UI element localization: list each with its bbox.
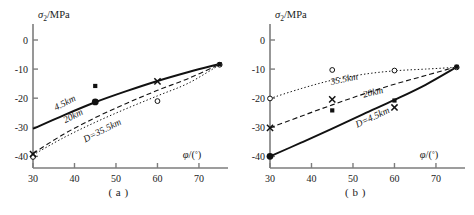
data-point-filled-circle <box>92 99 99 106</box>
data-point-open-circle <box>392 68 397 73</box>
x-axis-ticks: 3040506070 <box>265 163 441 184</box>
x-tick-label: 30 <box>28 173 38 184</box>
y-tick-label: -40 <box>15 151 28 162</box>
x-tick-label: 60 <box>152 173 162 184</box>
panel-caption-a: ( a ) <box>0 186 237 198</box>
curve-D-4-5km <box>270 67 457 156</box>
figure-root: 0-10-20-30-403040506070σ2/MPaφ/(°)D=35.5… <box>0 0 474 215</box>
curve-label: D=35.5km <box>81 117 123 145</box>
data-point-open-circle <box>268 96 273 101</box>
data-point-cross <box>329 96 335 102</box>
curve-labels: D=35.5km20km4.5km <box>52 93 122 145</box>
data-point-filled-square <box>93 84 97 88</box>
curve-label: 35.5km <box>328 71 358 87</box>
data-point-open-circle <box>155 99 160 104</box>
x-tick-label: 40 <box>306 173 316 184</box>
chart-canvas-a: 0-10-20-30-403040506070σ2/MPaφ/(°)D=35.5… <box>0 0 237 215</box>
data-point-filled-square <box>218 62 222 66</box>
chart-panel-a: 0-10-20-30-403040506070σ2/MPaφ/(°)D=35.5… <box>0 0 237 215</box>
data-point-filled-circle <box>267 153 274 160</box>
panel-caption-b: ( b ) <box>237 186 474 198</box>
y-tick-label: -10 <box>15 64 28 75</box>
data-point-open-circle <box>330 68 335 73</box>
x-tick-label: 50 <box>348 173 358 184</box>
x-tick-label: 70 <box>194 173 204 184</box>
x-tick-label: 40 <box>69 173 79 184</box>
curves <box>270 67 457 157</box>
chart-canvas-b: 0-10-20-30-403040506070σ2/MPaφ/(°)D=4.5k… <box>237 0 474 215</box>
data-point-filled-square <box>455 65 459 69</box>
y-tick-label: -30 <box>15 122 28 133</box>
y-axis-label: σ2/MPa <box>38 9 70 23</box>
y-tick-label: -40 <box>252 151 265 162</box>
x-axis-label: φ/(°) <box>420 149 439 161</box>
data-point-filled-square <box>330 108 334 112</box>
x-axis-ticks: 3040506070 <box>28 163 204 184</box>
x-tick-label: 30 <box>265 173 275 184</box>
chart-panel-b: 0-10-20-30-403040506070σ2/MPaφ/(°)D=4.5k… <box>237 0 474 215</box>
x-tick-label: 50 <box>111 173 121 184</box>
y-tick-label: -20 <box>15 93 28 104</box>
y-tick-label: -20 <box>252 93 265 104</box>
data-point-cross <box>391 104 397 110</box>
data-point-filled-square <box>392 98 396 102</box>
x-axis-label: φ/(°) <box>183 149 202 161</box>
x-tick-label: 60 <box>389 173 399 184</box>
x-tick-label: 70 <box>431 173 441 184</box>
y-tick-label: -30 <box>252 122 265 133</box>
y-tick-label: 0 <box>260 35 265 46</box>
curve-label: 20km <box>62 107 85 125</box>
y-tick-label: -10 <box>252 64 265 75</box>
y-axis-ticks: 0-10-20-30-40 <box>15 35 38 162</box>
curve-4-5km <box>33 64 220 129</box>
curve-labels: D=4.5km20km35.5km <box>328 71 391 129</box>
curve-label: D=4.5km <box>353 105 391 130</box>
axes <box>33 24 228 168</box>
curve-label: 20km <box>362 85 385 100</box>
y-axis-label: σ2/MPa <box>275 9 307 23</box>
y-tick-label: 0 <box>23 35 28 46</box>
